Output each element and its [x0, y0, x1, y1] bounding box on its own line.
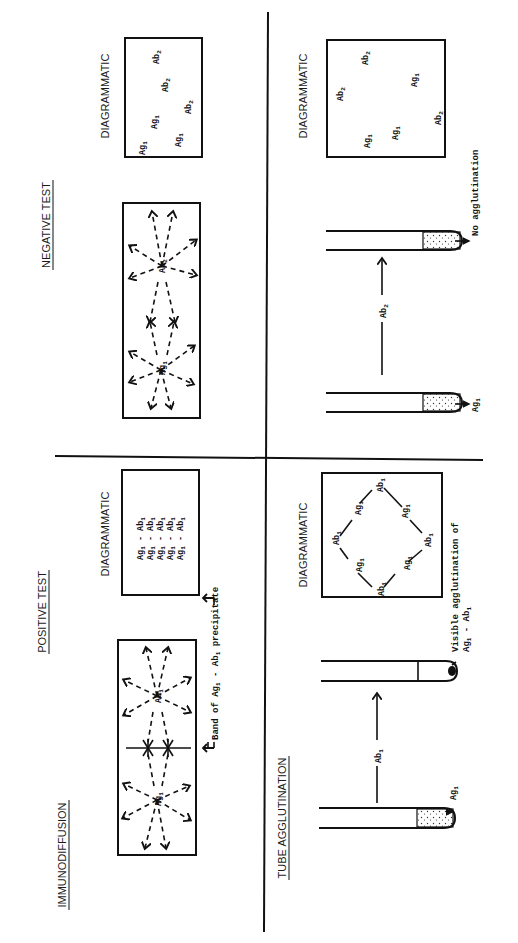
well-label-ab2: Ab2: [158, 259, 169, 273]
transfer-label-ab2: Ab2: [379, 304, 390, 318]
svg-text:Ab1: Ab1: [377, 582, 388, 596]
item-ag1: Ag1: [174, 133, 185, 147]
diagrammatic-label-id-pos: DIAGRAMMATIC: [99, 492, 111, 577]
item-ab2: Ab2: [161, 78, 172, 92]
tube-negative-diagram: Ag1 Ag1 Ag1 Ab2 Ab2 Ab2: [327, 40, 445, 157]
pair-row: Ag1 - Ab1: [176, 517, 187, 560]
svg-text:Ag1: Ag1: [363, 134, 374, 148]
column-title-negative: NEGATIVE TEST: [40, 182, 52, 268]
transfer-arrow-ab2: Ab2: [379, 259, 390, 375]
diagrammatic-label-tube-neg: DIAGRAMMATIC: [297, 54, 309, 139]
immunodiffusion-negative-gel: Ag1 Ab2: [123, 203, 200, 418]
horizontal-divider: [55, 456, 483, 460]
svg-text:Ab1: Ab1: [332, 531, 343, 545]
diagrammatic-label-tube-pos: DIAGRAMMATIC: [297, 503, 309, 588]
tube-label-ag1: Ag1: [471, 398, 482, 412]
tube-negative-second: No agglutination: [326, 150, 481, 250]
immunodiffusion-positive-gel: Ag1 Ab1: [118, 640, 196, 855]
visible-agglutination-pair: Ag1 - Ab1: [462, 607, 473, 652]
immunodiffusion-positive-diagram: Ag1 - Ab1 Ag1 - Ab1 Ag1 - Ab1 Ag1 - Ab1 …: [122, 470, 199, 595]
svg-text:Ab2: Ab2: [336, 87, 347, 101]
tube-label-ag1: Ag1: [449, 786, 460, 800]
well-label-ab1: Ab1: [154, 689, 165, 703]
svg-text:Ab2: Ab2: [361, 51, 372, 65]
section-title-immunodiffusion: IMMUNODIFFUSION: [56, 802, 68, 907]
band-label: Band of Ag1 - Ab1 precipitate: [211, 587, 222, 740]
svg-text:Ab1: Ab1: [424, 533, 435, 547]
visible-agglutination-label: Visible agglutination of: [451, 522, 461, 652]
section-title-tube-agglutination: TUBE AGGLUTINATION: [276, 758, 288, 879]
item-ab2: Ab2: [152, 50, 163, 64]
band-annotation: Band of Ag1 - Ab1 precipitate: [203, 587, 222, 752]
tube-positive-diagram: Ab1 Ag1 Ab1 Ag1 Ab1 Ag1 Ab1 Ag1: [322, 473, 442, 597]
transfer-arrow-ab1: Ab1: [374, 694, 385, 803]
svg-text:Ag1: Ag1: [401, 504, 412, 518]
svg-text:Ab2: Ab2: [434, 111, 445, 125]
svg-text:Ag1: Ag1: [410, 73, 421, 87]
no-agglutination-label: No agglutination: [471, 150, 481, 236]
svg-text:Ag1: Ag1: [355, 558, 366, 572]
well-label-ag1: Ag1: [154, 792, 165, 806]
immunodiffusion-negative-diagram: Ag1 Ag1 Ag1 Ab2 Ab2 Ab2: [125, 38, 202, 157]
item-ag1: Ag1: [138, 141, 149, 155]
tube-positive-first: Ag1: [319, 786, 460, 828]
item-ag1: Ag1: [150, 115, 161, 129]
tube-negative-first: Ag1: [326, 393, 482, 412]
vertical-divider: [264, 12, 268, 932]
figure-canvas: IMMUNODIFFUSION POSITIVE TEST NEGATIVE T…: [0, 0, 518, 943]
svg-text:Ab1: Ab1: [376, 478, 387, 492]
diagrammatic-label-id-neg: DIAGRAMMATIC: [99, 54, 111, 139]
transfer-label-ab1: Ab1: [374, 749, 385, 763]
tube-positive-second: Visible agglutination of Ag1 - Ab1: [321, 522, 473, 681]
column-title-positive: POSITIVE TEST: [36, 571, 48, 653]
item-ab2: Ab2: [184, 100, 195, 114]
well-label-ag1: Ag1: [158, 361, 169, 375]
svg-text:Ag1: Ag1: [354, 501, 365, 515]
svg-text:Ag1: Ag1: [403, 556, 414, 570]
svg-text:Ag1: Ag1: [391, 126, 402, 140]
